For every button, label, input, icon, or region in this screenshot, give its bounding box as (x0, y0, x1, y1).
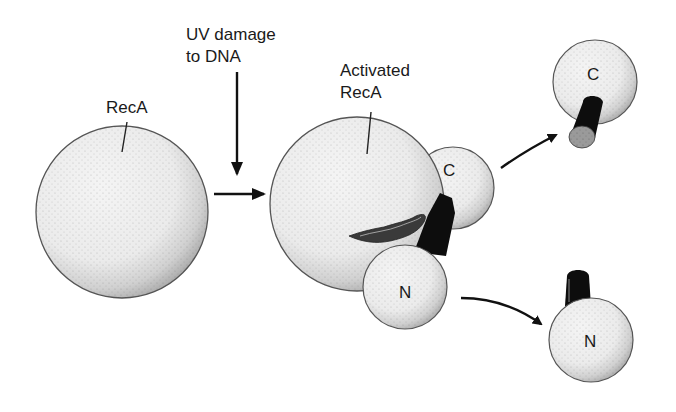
c-domain-free-label: C (587, 65, 599, 84)
activated-reca-label-line1: Activated (340, 61, 410, 80)
activated-reca-label-line2: RecA (340, 83, 382, 102)
n-release-arrow (461, 298, 541, 324)
n-domain-free-label: N (584, 332, 596, 351)
reca-label: RecA (106, 98, 148, 117)
n-domain-bound-label: N (399, 283, 411, 302)
uv-damage-label-line1: UV damage (186, 25, 276, 44)
c-domain-bound-label: C (443, 161, 455, 180)
c-release-arrow (501, 135, 556, 168)
recA-activation-diagram: RecA UV damage to DNA C N Activated RecA… (0, 0, 676, 412)
uv-damage-label-line2: to DNA (186, 47, 241, 66)
